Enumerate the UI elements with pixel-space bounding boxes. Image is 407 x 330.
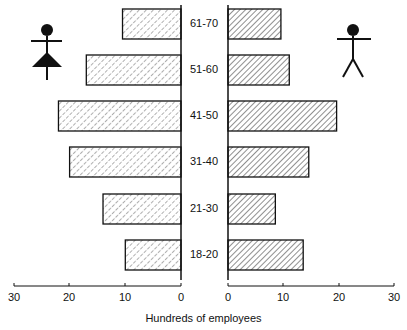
bar-male-31-40 [228, 147, 309, 177]
bar-male-18-20 [228, 240, 303, 270]
bar-male-41-50 [228, 101, 337, 131]
bar-female-18-20 [125, 240, 181, 270]
category-label: 51-60 [179, 63, 229, 75]
bar-female-31-40 [70, 147, 181, 177]
category-label: 18-20 [179, 248, 229, 260]
bar-female-41-50 [58, 101, 181, 131]
tick-left-30: 30 [0, 291, 29, 303]
category-label: 61-70 [179, 17, 229, 29]
tick-right-0: 0 [213, 291, 243, 303]
bars-group [58, 9, 336, 270]
tick-right-30: 30 [379, 291, 407, 303]
bar-female-61-70 [123, 9, 181, 39]
female-figure-icon [31, 24, 62, 80]
bar-female-21-30 [103, 194, 181, 224]
tick-left-10: 10 [110, 291, 140, 303]
tick-left-0: 0 [166, 291, 196, 303]
x-axis-label: Hundreds of employees [0, 312, 407, 324]
tick-right-10: 10 [268, 291, 298, 303]
x-axis-right [228, 283, 394, 286]
category-label: 41-50 [179, 109, 229, 121]
tick-left-20: 20 [54, 291, 84, 303]
bar-male-51-60 [228, 55, 289, 85]
bar-male-61-70 [228, 9, 281, 39]
tick-right-20: 20 [324, 291, 354, 303]
population-pyramid-chart: 61-7051-6041-5031-4021-3018-20 30 20 10 … [0, 0, 407, 330]
category-label: 21-30 [179, 202, 229, 214]
x-axis-left [14, 283, 181, 286]
bar-male-21-30 [228, 194, 275, 224]
category-label: 31-40 [179, 155, 229, 167]
male-figure-icon [337, 24, 371, 77]
bar-female-51-60 [86, 55, 181, 85]
